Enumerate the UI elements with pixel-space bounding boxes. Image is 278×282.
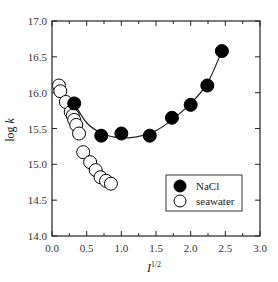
legend-seawater-marker [174, 195, 186, 207]
nacl-point [68, 97, 81, 110]
legend-nacl-marker [174, 180, 186, 192]
y-tick-label: 16.5 [28, 51, 48, 63]
x-axis-title-sup: 1/2 [151, 260, 161, 269]
y-tick-label: 15.5 [28, 123, 48, 135]
nacl-point [115, 127, 128, 140]
legend: NaCl seawater [166, 175, 242, 211]
nacl-point [95, 129, 108, 142]
nacl-point [184, 98, 197, 111]
chart: 0.00.51.01.52.02.53.0 14.014.515.015.516… [0, 0, 278, 282]
y-axis-title-italic: k [3, 117, 17, 123]
x-tick-label: 2.5 [218, 242, 232, 254]
nacl-point [143, 129, 156, 142]
legend-nacl-label: NaCl [196, 180, 219, 192]
y-tick-label: 16.0 [28, 87, 48, 99]
seawater-point [104, 177, 117, 190]
y-axis-title: log k [3, 117, 17, 141]
x-tick-label: 0.0 [45, 242, 59, 254]
x-axis-title: I1/2 [146, 260, 161, 275]
y-axis-title-base: log [3, 123, 17, 141]
nacl-point [201, 79, 214, 92]
nacl-point [215, 45, 228, 58]
y-tick-labels: 14.014.515.015.516.016.517.0 [28, 15, 48, 242]
y-tick-label: 15.0 [28, 158, 48, 170]
x-tick-label: 3.0 [253, 242, 267, 254]
legend-seawater-label: seawater [196, 195, 235, 207]
x-tick-label: 0.5 [80, 242, 94, 254]
nacl-point [165, 111, 178, 124]
x-tick-label: 2.0 [184, 242, 198, 254]
y-tick-label: 14.5 [28, 194, 48, 206]
nacl-fit-curve [74, 51, 222, 138]
data-points [52, 45, 228, 191]
y-tick-label: 14.0 [28, 230, 48, 242]
seawater-point [73, 127, 86, 140]
x-tick-labels: 0.00.51.01.52.02.53.0 [45, 242, 267, 254]
x-tick-label: 1.0 [114, 242, 128, 254]
x-tick-label: 1.5 [149, 242, 163, 254]
y-tick-label: 17.0 [28, 15, 48, 27]
